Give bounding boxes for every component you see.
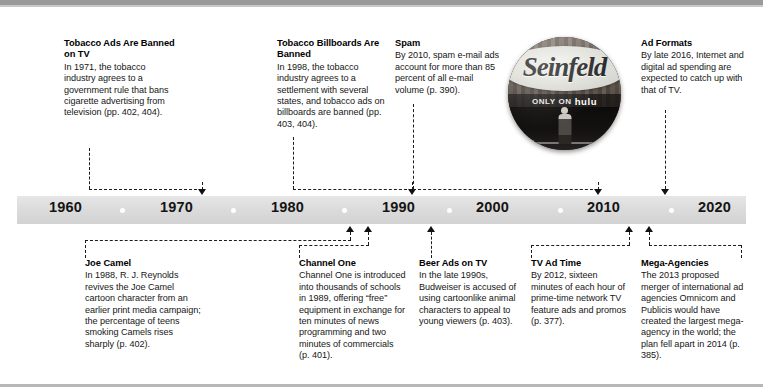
arrow-down-icon [661, 189, 669, 195]
connector-tobacco-ads-horizontal [89, 189, 202, 190]
event-title: Channel One [299, 258, 406, 269]
event-title: Mega-Agencies [641, 258, 749, 269]
event-block-tv-ad-time: TV Ad Time By 2012, sixteen minutes of e… [531, 258, 627, 327]
connector-tv-ad-time-vertical [531, 245, 532, 258]
timeline-figure: 1960 1970 1980 1990 2000 2010 2020 Tobac… [0, 0, 763, 387]
event-body: By late 2016, Internet and digital ad sp… [641, 50, 753, 96]
connector-channel-one-rise [368, 232, 369, 245]
connector-joe-camel-horizontal [85, 240, 351, 241]
connector-spam-horizontal [413, 189, 598, 190]
connector-channel-one-vertical [299, 245, 300, 258]
connector-mega-agencies-horizontal [649, 245, 741, 246]
connector-joe-camel-rise [350, 232, 351, 240]
photo-brand-text: Seinfeld [508, 52, 621, 83]
connector-beer-ads-vertical [431, 232, 432, 258]
connector-tobacco-billboards-vertical [293, 137, 294, 189]
axis-year-1980: 1980 [271, 199, 304, 215]
event-body: In 1988, R. J. Reynolds revives the Joe … [85, 270, 202, 350]
connector-tv-ad-time-rise [629, 232, 630, 245]
event-title: TV Ad Time [531, 258, 627, 269]
connector-ad-formats-vertical [665, 110, 666, 189]
event-block-tobacco-billboards: Tobacco Billboards Are Banned In 1998, t… [277, 38, 390, 130]
event-title: Beer Ads on TV [419, 258, 519, 269]
axis-tick-dot [120, 208, 125, 213]
event-block-mega-agencies: Mega-Agencies The 2013 proposed merger o… [641, 258, 749, 362]
event-block-channel-one: Channel One Channel One is introduced in… [299, 258, 406, 362]
connector-channel-one-horizontal [299, 245, 369, 246]
event-body: The 2013 proposed merger of internationa… [641, 270, 749, 361]
seinfeld-hulu-photo: Seinfeld ONLY ON hulu [508, 37, 621, 150]
axis-tick-dot [669, 208, 674, 213]
photo-tagline-brand: hulu [575, 96, 597, 107]
event-block-ad-formats: Ad Formats By late 2016, Internet and di… [641, 38, 753, 96]
event-body: By 2010, spam e-mail ads account for mor… [395, 50, 499, 96]
event-body: In 1971, the tobacco industry agrees to … [64, 62, 176, 119]
photo-tagline-prefix: ONLY ON [532, 97, 572, 106]
event-block-beer-ads: Beer Ads on TV In the late 1990s, Budwei… [419, 258, 519, 327]
axis-year-1970: 1970 [160, 199, 193, 215]
axis-year-2020: 2020 [698, 199, 731, 215]
axis-tick-dot [558, 208, 563, 213]
top-divider-shadow [0, 5, 763, 7]
axis-year-1960: 1960 [49, 199, 82, 215]
connector-tobacco-ads-vertical [89, 148, 90, 189]
axis-year-1990: 1990 [382, 199, 415, 215]
photo-stage-post [533, 140, 535, 145]
arrow-down-icon [198, 189, 206, 195]
event-block-spam: Spam By 2010, spam e-mail ads account fo… [395, 38, 499, 96]
connector-joe-camel-vertical [85, 240, 86, 258]
event-title: Tobacco Ads Are Banned on TV [64, 38, 176, 61]
event-body: Channel One is introduced into thousands… [299, 270, 406, 361]
connector-tobacco-billboards-horizontal [293, 189, 412, 190]
event-body: In 1998, the tobacco industry agrees to … [277, 62, 390, 130]
axis-tick-dot [447, 208, 452, 213]
axis-year-2000: 2000 [476, 199, 509, 215]
event-body: By 2012, sixteen minutes of each hour of… [531, 270, 627, 327]
connector-mega-agencies-rise [649, 232, 650, 245]
axis-year-2010: 2010 [587, 199, 620, 215]
arrow-down-icon [594, 189, 602, 195]
event-title: Tobacco Billboards Are Banned [277, 38, 390, 61]
photo-stage-post [596, 140, 598, 145]
event-block-tobacco-ads: Tobacco Ads Are Banned on TV In 1971, th… [64, 38, 176, 119]
event-title: Spam [395, 38, 499, 49]
axis-tick-dot [342, 208, 347, 213]
event-title: Ad Formats [641, 38, 753, 49]
connector-tv-ad-time-horizontal [531, 245, 630, 246]
event-title: Joe Camel [85, 258, 202, 269]
event-body: In the late 1990s, Budweiser is accused … [419, 270, 519, 327]
connector-mega-agencies-vertical [741, 245, 742, 258]
photo-performer-figure [558, 114, 571, 144]
connector-spam-vertical [413, 104, 414, 189]
event-block-joe-camel: Joe Camel In 1988, R. J. Reynolds revive… [85, 258, 202, 350]
axis-tick-dot [231, 208, 236, 213]
